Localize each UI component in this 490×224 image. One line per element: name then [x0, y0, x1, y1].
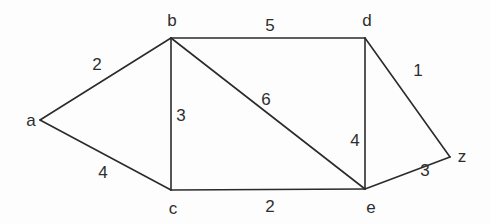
edge-b-e: [171, 38, 365, 189]
edge-a-b: [40, 38, 171, 120]
vertex-label-b: b: [167, 11, 176, 30]
vertex-label-d: d: [362, 11, 371, 30]
edge-c-e: [171, 189, 365, 190]
edge-weight-c-e: 2: [265, 197, 274, 216]
edge-weight-b-c: 3: [176, 106, 185, 125]
edge-weight-b-d: 5: [265, 16, 274, 35]
weighted-graph-diagram: 243562413 abcdez: [0, 0, 490, 224]
edge-weight-e-z: 3: [420, 161, 429, 180]
edge-e-z: [365, 157, 450, 189]
vertex-label-z: z: [458, 147, 467, 166]
edge-d-z: [365, 38, 450, 157]
edge-weights-group: 243562413: [92, 16, 429, 216]
vertex-label-e: e: [366, 198, 375, 217]
edge-weight-b-e: 6: [261, 90, 270, 109]
edge-weight-d-e: 4: [350, 131, 359, 150]
edge-weight-a-b: 2: [92, 55, 101, 74]
edge-weight-a-c: 4: [98, 163, 107, 182]
vertex-label-a: a: [26, 111, 36, 130]
edge-weight-d-z: 1: [413, 61, 422, 80]
vertex-label-c: c: [169, 199, 178, 218]
vertex-labels-group: abcdez: [26, 11, 466, 218]
